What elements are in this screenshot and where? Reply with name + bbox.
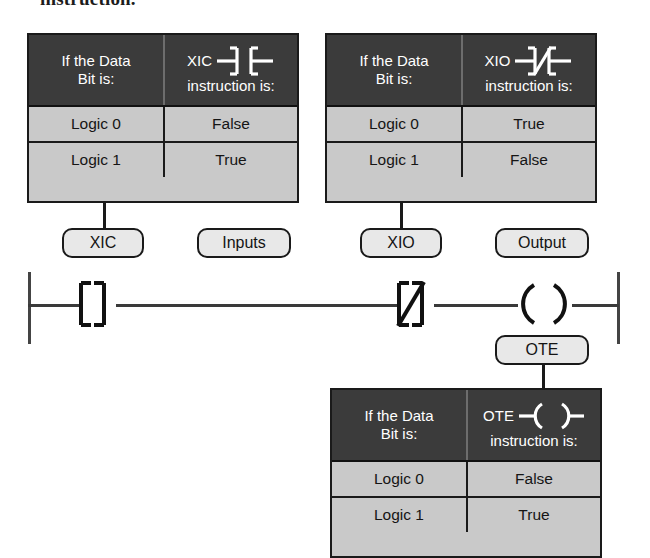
ote-row1-bit: Logic 1: [332, 498, 466, 532]
ote-coil-symbol: [519, 401, 585, 431]
xic-table-header: If the Data Bit is: XIC: [29, 35, 297, 107]
xic-row0-bit: Logic 0: [29, 107, 163, 141]
xic-header-databit-cell: If the Data Bit is:: [29, 35, 163, 105]
xio-header-line1: If the Data: [359, 52, 428, 70]
ote-header-databit-cell: If the Data Bit is:: [332, 390, 466, 460]
xic-row0-state: False: [163, 107, 297, 141]
callout-ote[interactable]: OTE: [495, 335, 589, 365]
ote-header-instruction-cell: OTE instruction is:: [466, 390, 600, 460]
callout-output-label: Output: [518, 234, 566, 252]
ote-header-line1: If the Data: [364, 407, 433, 425]
xio-table-header: If the Data Bit is: XIO: [327, 35, 595, 107]
xic-callout-connector: [103, 203, 106, 229]
xio-header-label: XIO: [485, 52, 511, 70]
rung-wire-middle: [116, 304, 398, 307]
xic-row1-state: True: [163, 143, 297, 177]
callout-inputs-label: Inputs: [222, 234, 266, 252]
callout-ote-label: OTE: [526, 341, 559, 359]
ote-truth-table: If the Data Bit is: OTE: [330, 388, 602, 558]
rung-wire-right-b: [572, 304, 619, 307]
xic-header-sublabel: instruction is:: [187, 77, 275, 95]
xio-truth-table: If the Data Bit is: XIO: [325, 33, 597, 203]
xio-contact[interactable]: [396, 280, 436, 328]
xio-header-instruction-cell: XIO: [461, 35, 595, 105]
xic-header-label: XIC: [187, 52, 212, 70]
xic-header-line1: If the Data: [61, 52, 130, 70]
callout-xio-label: XIO: [387, 234, 415, 252]
ote-row0-bit: Logic 0: [332, 462, 466, 496]
ote-callout-connector-bottom: [542, 365, 545, 390]
xio-contact-symbol: [515, 46, 573, 76]
xio-callout-connector: [400, 203, 403, 229]
xio-row1-bit: Logic 1: [327, 143, 461, 177]
ote-row1-state: True: [466, 498, 600, 532]
table-row: Logic 1 True: [332, 496, 600, 532]
power-rail-left: [28, 272, 31, 344]
xic-header-line2: Bit is:: [61, 70, 130, 88]
xic-row1-bit: Logic 1: [29, 143, 163, 177]
callout-xio[interactable]: XIO: [360, 228, 442, 258]
xic-contact-symbol: [217, 46, 275, 76]
ote-header-sublabel: instruction is:: [490, 432, 578, 450]
rung-wire-left: [28, 304, 80, 307]
ote-table-header: If the Data Bit is: OTE: [332, 390, 600, 462]
xio-header-line2: Bit is:: [359, 70, 428, 88]
table-row: Logic 0 False: [29, 107, 297, 141]
table-row: Logic 1 True: [29, 141, 297, 177]
table-row: Logic 1 False: [327, 141, 595, 177]
callout-xic[interactable]: XIC: [62, 228, 144, 258]
xic-truth-table: If the Data Bit is: XIC: [27, 33, 299, 203]
callout-inputs[interactable]: Inputs: [197, 228, 291, 258]
xic-header-instruction-cell: XIC: [163, 35, 297, 105]
callout-output[interactable]: Output: [495, 228, 589, 258]
table-row: Logic 0 False: [332, 462, 600, 496]
power-rail-right: [617, 272, 620, 344]
callout-xic-label: XIC: [90, 234, 117, 252]
xio-row1-state: False: [461, 143, 595, 177]
xic-contact[interactable]: [78, 280, 118, 328]
ote-coil[interactable]: [514, 280, 574, 328]
table-row: Logic 0 True: [327, 107, 595, 141]
ote-row0-state: False: [466, 462, 600, 496]
xio-header-databit-cell: If the Data Bit is:: [327, 35, 461, 105]
page-caption-cutoff: instruction.: [40, 0, 136, 10]
xio-row0-bit: Logic 0: [327, 107, 461, 141]
xio-row0-state: True: [461, 107, 595, 141]
ote-header-label: OTE: [483, 407, 514, 425]
xio-header-sublabel: instruction is:: [485, 77, 573, 95]
ote-header-line2: Bit is:: [364, 425, 433, 443]
rung-wire-right-a: [434, 304, 518, 307]
